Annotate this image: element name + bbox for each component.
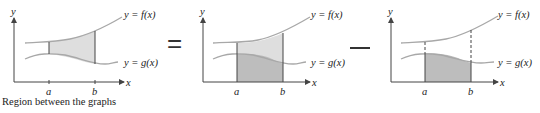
f-curve xyxy=(213,17,310,43)
x-axis-label: x xyxy=(311,77,317,88)
y-axis-label: y xyxy=(10,6,16,17)
f-curve xyxy=(401,16,498,43)
panel-area-under-f: y x a b y = f(x) y = g(x) xyxy=(199,6,345,97)
tick-a-label: a xyxy=(422,86,427,97)
area-under-g-fill xyxy=(425,53,471,82)
y-axis-label: y xyxy=(387,6,393,17)
tick-b-label: b xyxy=(468,86,473,97)
panel-area-under-g: y x a b y = f(x) y = g(x) xyxy=(387,6,532,97)
panel-region-between: y x a b y = f(x) y = g(x) xyxy=(10,6,158,97)
y-axis-label: y xyxy=(199,6,205,17)
f-label: y = f(x) xyxy=(310,9,343,21)
x-axis-label: x xyxy=(499,77,505,88)
f-label: y = f(x) xyxy=(497,9,530,21)
figure-caption: Region between the graphs xyxy=(2,96,116,107)
region-between-fill xyxy=(49,31,95,64)
g-label: y = g(x) xyxy=(497,57,532,69)
equals-sign: = xyxy=(167,28,182,58)
x-axis-label: x xyxy=(125,77,131,88)
tick-a-label: a xyxy=(234,86,239,97)
g-label: y = g(x) xyxy=(310,57,345,69)
f-label: y = f(x) xyxy=(123,9,156,21)
g-label: y = g(x) xyxy=(123,57,158,69)
tick-b-label: b xyxy=(280,86,285,97)
